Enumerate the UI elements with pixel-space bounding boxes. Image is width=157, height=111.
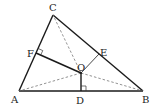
segment-of [36, 53, 81, 73]
label-o: O [77, 62, 85, 73]
label-e: E [100, 47, 107, 58]
label-a: A [10, 94, 19, 105]
side-bc [53, 15, 143, 91]
segment-oa [19, 73, 81, 91]
segment-ob [81, 73, 143, 91]
label-c: C [49, 2, 57, 13]
label-d: D [76, 95, 84, 106]
label-f: F [27, 48, 34, 59]
right-angle-mark-d [81, 86, 86, 91]
triangle-diagram: C F E O A D B [0, 0, 157, 111]
label-b: B [142, 94, 149, 105]
